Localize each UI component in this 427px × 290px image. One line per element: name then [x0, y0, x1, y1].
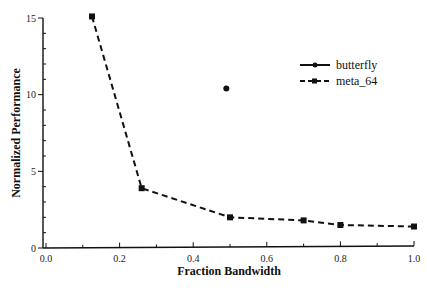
- y-tick-label: 15: [26, 13, 36, 24]
- meta_64-marker: [89, 13, 95, 19]
- y-tick-label: 0: [31, 243, 36, 254]
- legend-marker: [313, 63, 318, 68]
- meta_64-line: [92, 16, 414, 226]
- y-axis-title: Normalized Performance: [9, 68, 23, 198]
- x-tick-label: 0.8: [334, 253, 347, 264]
- line-chart: 0510150.00.20.40.60.81.0 butterflymeta_6…: [0, 0, 427, 290]
- y-tick-label: 10: [26, 89, 36, 100]
- x-tick-label: 0.2: [113, 253, 126, 264]
- y-tick-label: 5: [31, 166, 36, 177]
- legend-label: butterfly: [336, 58, 377, 72]
- x-axis-line: [43, 246, 414, 248]
- butterfly-marker: [223, 86, 229, 92]
- meta_64-marker: [411, 224, 417, 230]
- meta_64-marker: [301, 217, 307, 223]
- meta_64-marker: [337, 222, 343, 228]
- plot-area: [89, 13, 417, 229]
- x-tick-label: 0.6: [261, 253, 274, 264]
- meta_64-marker: [139, 185, 145, 191]
- legend-marker: [312, 79, 317, 84]
- x-axis-title: Fraction Bandwidth: [177, 264, 281, 278]
- legend-label: meta_64: [336, 74, 377, 88]
- x-tick-label: 0.4: [187, 253, 200, 264]
- x-tick-label: 0.0: [40, 253, 53, 264]
- legend: butterflymeta_64: [300, 58, 377, 88]
- x-tick-label: 1.0: [408, 253, 421, 264]
- meta_64-marker: [227, 214, 233, 220]
